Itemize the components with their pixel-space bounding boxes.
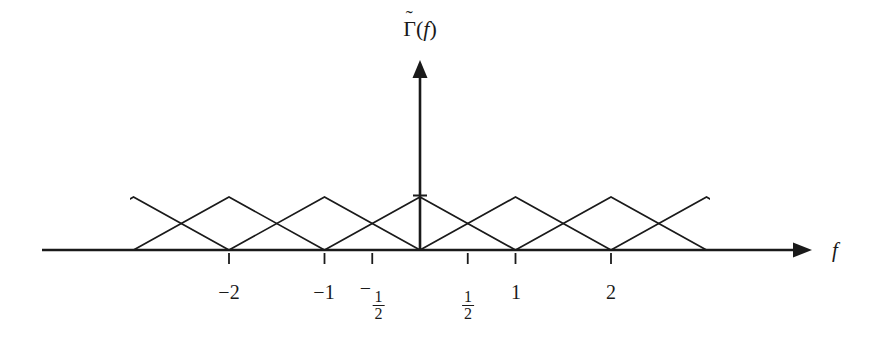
y-axis-group [413,60,428,250]
spectrum-plot [0,0,884,343]
triangle-replica [516,197,707,250]
fraction: 12 [462,289,474,323]
triangle-replica [38,197,229,250]
x-axis-arrowhead [793,243,812,258]
x-axis-label: f [832,240,838,261]
minus-sign-icon: − [360,277,371,299]
y-axis-arrowhead [413,60,428,78]
triangle-replica [134,197,325,250]
x-axis-ticks [229,253,611,264]
fraction: 12 [373,289,385,323]
fraction-denominator: 2 [462,305,474,322]
figure-canvas: ˜ Γ (f) f −2−1−121212 [0,0,884,343]
x-tick-label-neg0_5: −12 [360,278,385,322]
triangle-replica [229,197,420,250]
fraction-numerator: 1 [462,289,474,305]
x-tick-label-2: 2 [606,282,616,302]
fraction-denominator: 2 [373,305,385,322]
fraction-numerator: 1 [373,289,385,305]
triangle-replica [420,197,611,250]
close-paren: ) [429,16,436,41]
triangle-replica [611,197,802,250]
x-tick-label-1: 1 [511,282,521,302]
y-axis-label: ˜ Γ (f) [403,18,437,40]
gamma-symbol-wrapper: ˜ Γ [403,18,416,40]
x-tick-label-0_5: 12 [462,278,474,322]
tilde-accent-icon: ˜ [406,9,413,27]
open-paren: ( [416,16,423,41]
x-tick-label-neg1: −1 [313,282,334,302]
x-tick-label-neg2: −2 [218,282,239,302]
